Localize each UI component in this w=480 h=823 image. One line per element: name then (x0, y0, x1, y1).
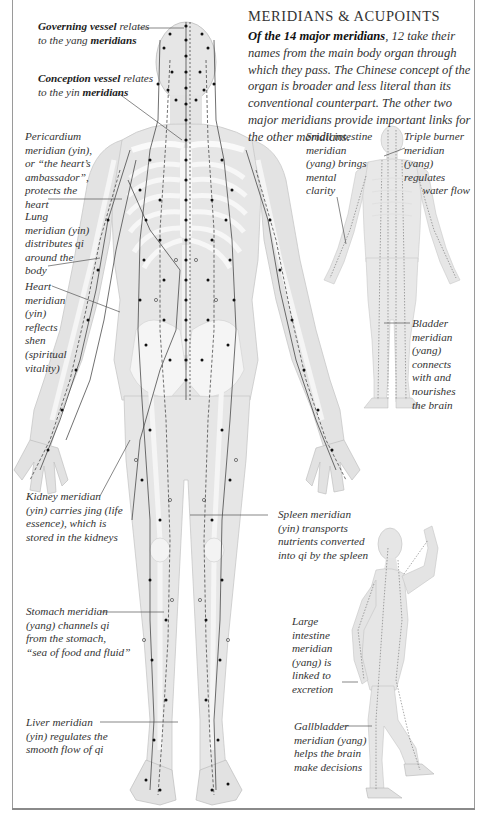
label-line: (spiritual (25, 348, 67, 362)
label-line: Large (292, 615, 333, 629)
label-line: Liver meridian (26, 716, 108, 730)
label-line: protects the (25, 184, 92, 198)
label-line: meridian (yin), (25, 144, 92, 158)
label-line: (yang) is (292, 656, 333, 670)
intro-text: , 12 take their names from the main body… (248, 29, 470, 144)
label-line: Heart (25, 280, 67, 294)
label-line: (yang) regulates (404, 157, 470, 184)
label-bladder-meridian: Bladder meridian (yang) connects with an… (412, 317, 456, 412)
label-line: nourishes (412, 385, 456, 399)
label-line: (yang) channels qi (26, 619, 130, 633)
label-line: Kidney meridian (26, 490, 123, 504)
label-line: around the (25, 251, 89, 265)
label-triple-burner-meridian: Triple burner meridian (yang) regulates … (404, 130, 470, 198)
label-text: relates (117, 20, 150, 32)
intro-paragraph: Of the 14 major meridians, 12 take their… (248, 28, 474, 146)
label-line: Small intestine (306, 130, 372, 144)
label-line: clarity (306, 184, 372, 198)
label-large-intestine-meridian: Large intestine meridian (yang) is linke… (292, 615, 333, 697)
label-text: to the yang (38, 34, 91, 46)
label-kidney-meridian: Kidney meridian (yin) carries jing (life… (26, 490, 123, 544)
label-line: meridian (404, 144, 470, 158)
label-lung-meridian: Lung meridian (yin) distributes qi aroun… (25, 210, 89, 278)
label-small-intestine-meridian: Small intestine meridian (yang) brings m… (306, 130, 372, 198)
label-spleen-meridian: Spleen meridian (yin) transports nutrien… (278, 508, 368, 562)
label-line: essence), which is (26, 517, 123, 531)
label-conception-vessel: Conception vessel relates to the yin mer… (38, 72, 153, 99)
label-line: from the stomach, (26, 632, 130, 646)
label-line: distributes qi (25, 237, 89, 251)
label-stomach-meridian: Stomach meridian (yang) channels qi from… (26, 605, 130, 659)
label-line: make decisions (294, 761, 366, 775)
label-line: smooth flow of qi (26, 743, 108, 757)
label-text: Governing vessel (38, 20, 117, 32)
label-line: “sea of food and fluid” (26, 646, 130, 660)
label-governing-vessel: Governing vessel relates to the yang mer… (38, 20, 149, 47)
label-line: Pericardium (25, 130, 92, 144)
label-gallbladder-meridian: Gallbladder meridian (yang) helps the br… (294, 720, 366, 774)
label-line: intestine (292, 629, 333, 643)
label-line: mental (306, 171, 372, 185)
label-line: or “the heart’s (25, 157, 92, 171)
label-text: meridians (82, 86, 128, 98)
label-liver-meridian: Liver meridian (yin) regulates the smoot… (26, 716, 108, 757)
label-line: vitality) (25, 362, 67, 376)
label-line: connects (412, 358, 456, 372)
label-line: linked to (292, 669, 333, 683)
label-line: Gallbladder (294, 720, 366, 734)
label-line: (yang) brings (306, 157, 372, 171)
label-line: meridian (306, 144, 372, 158)
label-line: nutrients converted (278, 535, 368, 549)
label-text: Conception vessel (38, 72, 120, 84)
page-title: MERIDIANS & ACUPOINTS (248, 8, 440, 25)
label-line: water flow (404, 184, 470, 198)
label-line: helps the brain (294, 747, 366, 761)
label-line: Stomach meridian (26, 605, 130, 619)
label-line: excretion (292, 683, 333, 697)
label-line: meridian (yang) (294, 734, 366, 748)
label-line: shen (25, 334, 67, 348)
label-line: meridian (yin) (25, 224, 89, 238)
label-line: (yin) regulates the (26, 730, 108, 744)
label-line: stored in the kidneys (26, 531, 123, 545)
intro-bold: Of the 14 major meridians (248, 29, 385, 43)
label-line: with and (412, 371, 456, 385)
label-text: relates (120, 72, 153, 84)
label-line: the brain (412, 399, 456, 413)
label-line: Triple burner (404, 130, 470, 144)
label-line: body (25, 264, 89, 278)
label-line: ambassador”, (25, 171, 92, 185)
label-line: Lung (25, 210, 89, 224)
label-line: meridian (412, 331, 456, 345)
label-heart-meridian: Heart meridian (yin) reflects shen (spir… (25, 280, 67, 375)
label-line: into qi by the spleen (278, 549, 368, 563)
label-line: (yin) carries jing (life (26, 504, 123, 518)
label-line: reflects (25, 321, 67, 335)
label-line: (yang) (412, 344, 456, 358)
label-text: meridians (91, 34, 137, 46)
label-line: meridian (292, 642, 333, 656)
label-line: Bladder (412, 317, 456, 331)
label-line: meridian (25, 294, 67, 308)
label-line: (yin) transports (278, 522, 368, 536)
label-text: to the yin (38, 86, 82, 98)
label-line: (yin) (25, 307, 67, 321)
label-line: Spleen meridian (278, 508, 368, 522)
label-pericardium-meridian: Pericardium meridian (yin), or “the hear… (25, 130, 92, 212)
